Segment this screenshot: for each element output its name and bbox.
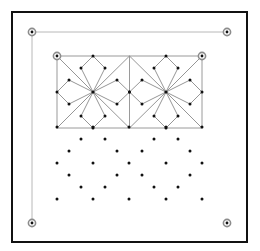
- petal-dot: [189, 103, 192, 106]
- anchor-bottom-left: [28, 219, 35, 226]
- anchor-center-dot: [226, 222, 229, 225]
- edge-dot: [92, 55, 95, 58]
- spoke-line: [93, 92, 105, 116]
- petal-dot: [116, 79, 119, 82]
- grid-dot: [68, 174, 71, 177]
- grid-dot: [92, 198, 95, 201]
- spoke-line: [166, 68, 178, 92]
- star-tile: [128, 55, 204, 130]
- grid-dot: [153, 186, 156, 189]
- grid-dot: [165, 126, 168, 129]
- grid-dot: [80, 138, 83, 141]
- grid-dot: [104, 186, 107, 189]
- petal-edge-line: [154, 116, 166, 128]
- grid-dot: [141, 150, 144, 153]
- grid-dot: [141, 174, 144, 177]
- petal-edge-line: [57, 80, 69, 92]
- spoke-line: [81, 92, 93, 116]
- petal-dot: [153, 67, 156, 70]
- spoke-line: [166, 92, 178, 116]
- spoke-line: [93, 68, 105, 92]
- grid-dot: [116, 150, 119, 153]
- spoke-line: [81, 68, 93, 92]
- spoke-line: [154, 68, 166, 92]
- spoke-line: [69, 92, 93, 104]
- grid-dot: [201, 198, 204, 201]
- petal-dot: [141, 103, 144, 106]
- anchor-inner-top-left: [53, 52, 60, 59]
- grid-dot: [189, 150, 192, 153]
- star-tile: [56, 55, 132, 130]
- petal-dot: [68, 79, 71, 82]
- grid-dot: [165, 198, 168, 201]
- petal-dot: [177, 115, 180, 118]
- spoke-line: [69, 80, 93, 92]
- dot-grid: [56, 126, 204, 201]
- petal-edge-line: [166, 116, 178, 128]
- petal-edge-line: [166, 56, 178, 68]
- grid-dot: [80, 186, 83, 189]
- spoke-line: [166, 80, 190, 92]
- petal-edge-line: [130, 80, 143, 92]
- edge-dot: [201, 91, 204, 94]
- anchor-center-dot: [226, 31, 229, 34]
- petal-dot: [177, 67, 180, 70]
- grid-dot: [128, 198, 131, 201]
- petal-dot: [80, 67, 83, 70]
- grid-dot: [128, 126, 131, 129]
- petal-edge-line: [93, 56, 105, 68]
- spoke-line: [93, 92, 117, 104]
- petal-edge-line: [190, 80, 202, 92]
- spoke-line: [154, 92, 166, 116]
- grid-dot: [104, 138, 107, 141]
- grid-dot: [128, 162, 131, 165]
- grid-dot: [201, 162, 204, 165]
- petal-edge-line: [117, 92, 130, 104]
- petal-edge-line: [93, 116, 105, 128]
- anchor-inner-top-right: [198, 52, 205, 59]
- edge-dot: [165, 55, 168, 58]
- grid-dot: [201, 126, 204, 129]
- grid-dot: [177, 186, 180, 189]
- grid-dot: [92, 126, 95, 129]
- center-dot: [164, 90, 167, 93]
- petal-dot: [68, 103, 71, 106]
- spoke-line: [166, 92, 190, 104]
- anchor-top-right: [223, 28, 230, 35]
- center-dot: [91, 90, 94, 93]
- grid-dot: [56, 198, 59, 201]
- grid-dot: [68, 150, 71, 153]
- petal-edge-line: [154, 56, 166, 68]
- grid-dot: [56, 126, 59, 129]
- geometric-pattern-diagram: [0, 0, 260, 251]
- grid-dot: [56, 162, 59, 165]
- grid-dot: [116, 174, 119, 177]
- petal-dot: [104, 67, 107, 70]
- petal-edge-line: [190, 92, 202, 104]
- anchor-top-left: [28, 28, 35, 35]
- petal-edge-line: [130, 92, 143, 104]
- petal-edge-line: [117, 80, 130, 92]
- edge-dot: [128, 91, 131, 94]
- spoke-line: [93, 80, 117, 92]
- petal-dot: [104, 115, 107, 118]
- petal-edge-line: [81, 116, 93, 128]
- petal-dot: [153, 115, 156, 118]
- grid-dot: [92, 162, 95, 165]
- anchor-center-dot: [31, 222, 34, 225]
- petal-dot: [189, 79, 192, 82]
- anchor-center-dot: [31, 31, 34, 34]
- petal-dot: [141, 79, 144, 82]
- spoke-line: [142, 92, 166, 104]
- anchor-center-dot: [201, 55, 204, 58]
- grid-dot: [165, 162, 168, 165]
- anchor-center-dot: [56, 55, 59, 58]
- anchor-bottom-right: [223, 219, 230, 226]
- grid-dot: [189, 174, 192, 177]
- grid-dot: [153, 138, 156, 141]
- edge-dot: [56, 91, 59, 94]
- spoke-line: [142, 80, 166, 92]
- petal-dot: [80, 115, 83, 118]
- petal-edge-line: [81, 56, 93, 68]
- petal-dot: [116, 103, 119, 106]
